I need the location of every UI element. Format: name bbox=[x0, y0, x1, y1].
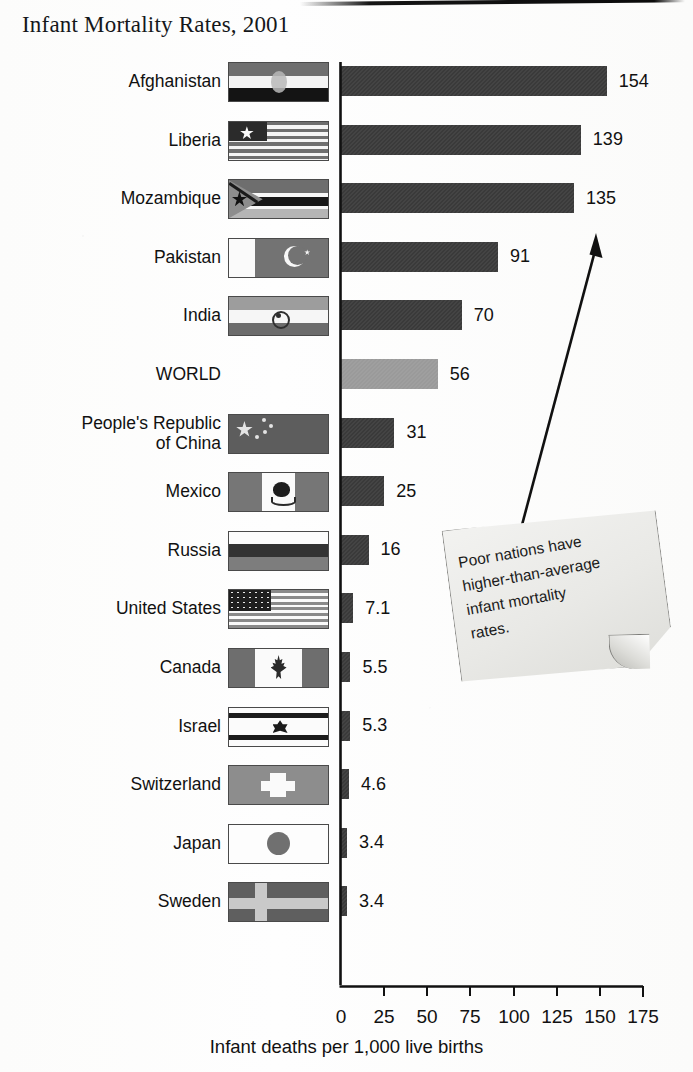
bar-value-label: 4.6 bbox=[361, 761, 386, 807]
flag-united-states-icon bbox=[228, 589, 329, 629]
flag-afghanistan-icon bbox=[228, 62, 329, 102]
x-tick-label-150: 150 bbox=[584, 1006, 616, 1028]
bar-united-states bbox=[341, 593, 353, 623]
flag-israel-icon bbox=[228, 707, 329, 747]
bar-value-label: 139 bbox=[593, 117, 623, 163]
bar-liberia bbox=[341, 125, 581, 155]
chart-row: Israel 5.3 bbox=[0, 703, 693, 749]
row-label-switzerland: Switzerland bbox=[11, 761, 221, 807]
chart-row: Japan 3.4 bbox=[0, 820, 693, 866]
row-label-line: India bbox=[183, 305, 221, 325]
row-label-world: WORLD bbox=[11, 351, 221, 397]
row-label-line: Mexico bbox=[166, 481, 221, 501]
bar-chart-plot: Afghanistan 154Liberia 139Mozambique 135… bbox=[0, 58, 693, 958]
row-label-line: Mozambique bbox=[121, 188, 221, 208]
bar-value-label: 70 bbox=[474, 292, 494, 338]
x-axis-tick-labels: 0 25 50 75 100 125 150 175 bbox=[0, 1006, 693, 1030]
bar-value-label: 56 bbox=[450, 351, 470, 397]
flag-japan-icon bbox=[228, 824, 329, 864]
x-axis-ticks bbox=[384, 986, 643, 997]
bar-people-s-republic-of-china bbox=[341, 418, 394, 448]
bar-value-label: 5.5 bbox=[362, 644, 387, 690]
chart-row: Afghanistan 154 bbox=[0, 58, 693, 104]
bar-value-label: 31 bbox=[406, 410, 426, 456]
chart-row: Sweden 3.4 bbox=[0, 878, 693, 924]
flag-switzerland-icon bbox=[228, 765, 329, 805]
bar-afghanistan bbox=[341, 66, 607, 96]
bar-value-label: 7.1 bbox=[365, 585, 390, 631]
bar-value-label: 25 bbox=[396, 468, 416, 514]
bar-world bbox=[341, 359, 438, 389]
row-label-sweden: Sweden bbox=[11, 878, 221, 924]
bar-value-label: 135 bbox=[586, 175, 616, 221]
row-label-line: of China bbox=[156, 433, 221, 453]
chart-row: WORLD56 bbox=[0, 351, 693, 397]
flag-sweden-icon bbox=[228, 882, 329, 922]
page-title: Infant Mortality Rates, 2001 bbox=[22, 12, 290, 38]
bar-russia bbox=[341, 535, 369, 565]
flag-india-icon bbox=[228, 296, 329, 336]
chart-row: Mozambique 135 bbox=[0, 175, 693, 221]
row-label-pakistan: Pakistan bbox=[11, 234, 221, 280]
row-label-line: Liberia bbox=[168, 130, 221, 150]
row-label-liberia: Liberia bbox=[11, 117, 221, 163]
chart-row: India 70 bbox=[0, 292, 693, 338]
bar-value-label: 3.4 bbox=[359, 820, 384, 866]
x-tick-label-175: 175 bbox=[627, 1006, 659, 1028]
row-label-mexico: Mexico bbox=[11, 468, 221, 514]
row-label-line: Afghanistan bbox=[129, 71, 221, 91]
flag-mozambique-icon bbox=[228, 179, 329, 219]
row-label-line: WORLD bbox=[156, 364, 221, 384]
chart-row: Switzerland 4.6 bbox=[0, 761, 693, 807]
chart-row: Pakistan 91 bbox=[0, 234, 693, 280]
bar-value-label: 16 bbox=[381, 527, 401, 573]
row-label-line: United States bbox=[116, 598, 221, 618]
row-label-india: India bbox=[11, 292, 221, 338]
row-label-line: Sweden bbox=[158, 891, 221, 911]
chart-row: Mexico 25 bbox=[0, 468, 693, 514]
x-tick-label-25: 25 bbox=[373, 1006, 394, 1028]
x-axis-title: Infant deaths per 1,000 live births bbox=[0, 1036, 693, 1058]
bar-value-label: 3.4 bbox=[359, 878, 384, 924]
flag-mexico-icon bbox=[228, 472, 329, 512]
x-tick-label-100: 100 bbox=[498, 1006, 530, 1028]
row-label-canada: Canada bbox=[11, 644, 221, 690]
figure-page: Infant Mortality Rates, 2001 Afghanistan… bbox=[0, 0, 693, 1072]
bar-value-label: 154 bbox=[619, 58, 649, 104]
row-label-mozambique: Mozambique bbox=[11, 175, 221, 221]
bar-switzerland bbox=[341, 769, 349, 799]
chart-row: Liberia 139 bbox=[0, 117, 693, 163]
x-tick-label-0: 0 bbox=[336, 1006, 347, 1028]
bar-mexico bbox=[341, 476, 384, 506]
bar-mozambique bbox=[341, 183, 574, 213]
row-label-line: Israel bbox=[178, 716, 221, 736]
flag-liberia-icon bbox=[228, 121, 329, 161]
top-rule-divider bbox=[300, 0, 685, 6]
bar-pakistan bbox=[341, 242, 498, 272]
row-label-line: Russia bbox=[168, 540, 222, 560]
row-label-line: Switzerland bbox=[131, 774, 221, 794]
flag-russia-icon bbox=[228, 531, 329, 571]
chart-row: People's Republicof China 31 bbox=[0, 410, 693, 456]
bar-value-label: 91 bbox=[510, 234, 530, 280]
bar-japan bbox=[341, 828, 347, 858]
flag-canada-icon bbox=[228, 648, 329, 688]
x-tick-label-50: 50 bbox=[416, 1006, 437, 1028]
row-label-japan: Japan bbox=[11, 820, 221, 866]
bar-india bbox=[341, 300, 462, 330]
row-label-united-states: United States bbox=[11, 585, 221, 631]
row-label-line: Pakistan bbox=[154, 247, 221, 267]
bar-sweden bbox=[341, 886, 347, 916]
bar-canada bbox=[341, 652, 350, 682]
row-label-israel: Israel bbox=[11, 703, 221, 749]
row-label-line: Canada bbox=[160, 657, 221, 677]
x-tick-label-125: 125 bbox=[541, 1006, 573, 1028]
bar-value-label: 5.3 bbox=[362, 703, 387, 749]
row-label-russia: Russia bbox=[11, 527, 221, 573]
row-label-people-s-republic-of-china: People's Republicof China bbox=[11, 410, 221, 456]
x-tick-label-75: 75 bbox=[459, 1006, 480, 1028]
flag-pakistan-icon bbox=[228, 238, 329, 278]
row-label-line: Japan bbox=[173, 833, 221, 853]
bar-israel bbox=[341, 711, 350, 741]
flag-china-icon bbox=[228, 414, 329, 454]
